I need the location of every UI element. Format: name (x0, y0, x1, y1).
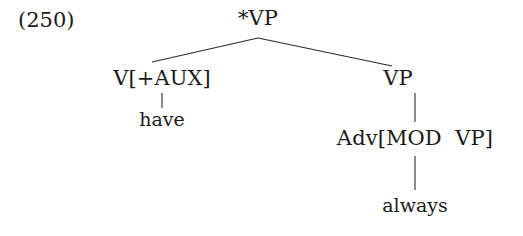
tree-node-adv-mod-vp: Adv[MOD VP] (337, 128, 493, 149)
example-number: (250) (18, 10, 74, 31)
tree-node-v-aux: V[+AUX] (113, 68, 211, 89)
tree-leaf-always: always (382, 196, 447, 215)
tree-leaf-have: have (139, 110, 185, 129)
tree-node-root: *VP (238, 8, 278, 29)
syntax-tree-figure: (250) *VP V[+AUX] VP have Adv[MOD VP] al… (0, 0, 523, 236)
branch-root-to-right (258, 38, 392, 66)
tree-node-vp: VP (383, 68, 413, 89)
branch-root-to-left (152, 38, 258, 62)
